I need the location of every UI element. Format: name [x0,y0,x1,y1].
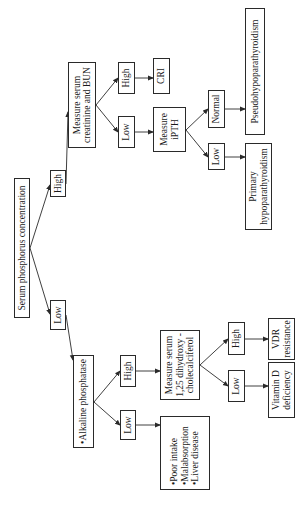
root-node-serum-phosphorus: Serum phosphorus concentration [14,178,30,318]
node-high-creatinine: High [118,62,135,94]
node-measure-ipth: Measure iPTH [153,107,186,152]
node-cri: CRI [153,58,170,94]
flowchart-canvas: Serum phosphorus concentration High Low … [0,0,303,510]
node-normal-ipth: Normal [208,90,225,128]
node-causes-list: •Poor intake •Malabsorption •Liver disea… [160,416,210,490]
node-measure-dihydroxycholecalciferol: Measure serum 1,25 dihydroxy - cholecalc… [160,330,200,400]
node-primary-hypoparathyroidism: Primary hypoparathyroidism [245,143,272,230]
node-vitamin-d-deficiency: Vitamin D deficiency [268,362,295,418]
node-low-creatinine: Low [118,116,135,148]
node-pseudohypoparathyroidism: Pseudohypoparathyroidism [245,8,265,135]
node-low-ipth: Low [208,143,225,170]
node-vdr-resistance: VDR resistance [268,318,295,360]
node-measure-creatinine-bun: Measure serum creatinine and BUN [68,62,96,148]
node-alkaline-phosphatase: •Alkaline phosphatase [73,355,94,448]
node-high-vitd: High [228,322,245,355]
node-high-phosphorus: High [50,170,66,197]
node-high-alkaline: High [120,355,136,387]
node-low-vitd: Low [228,370,245,402]
node-low-phosphorus: Low [50,300,66,330]
node-low-alkaline: Low [120,410,136,440]
